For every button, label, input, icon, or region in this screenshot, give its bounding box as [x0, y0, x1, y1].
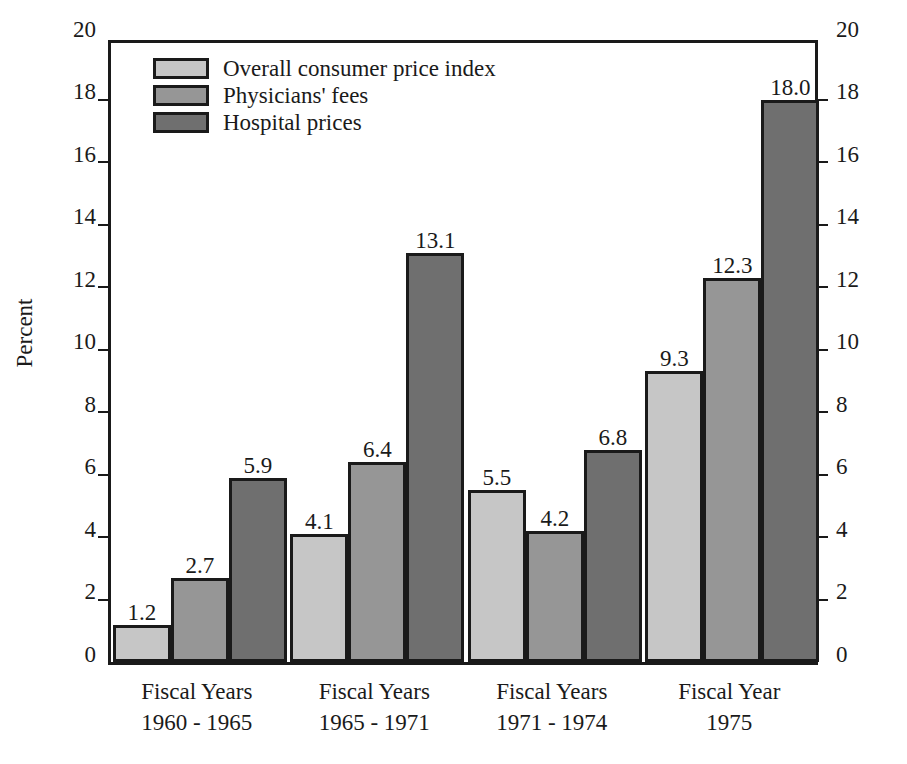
y-tick-left	[98, 411, 111, 413]
bar: 2.7	[171, 578, 229, 662]
x-axis-group-label-line: 1975	[678, 707, 780, 738]
y-tick-label-right: 16	[836, 142, 859, 165]
y-tick-label-left: 18	[73, 80, 96, 103]
legend-item[interactable]: Hospital prices	[153, 109, 496, 136]
y-tick-label-left: 14	[73, 205, 96, 228]
y-tick-label-right: 10	[836, 330, 859, 353]
x-axis-group-label-line: Fiscal Years	[141, 676, 252, 707]
bar: 18.0	[761, 100, 819, 663]
x-axis-group-label-line: 1971 - 1974	[496, 707, 607, 738]
legend-swatch-icon	[153, 112, 209, 133]
x-axis-group-label: Fiscal Years1971 - 1974	[496, 676, 607, 738]
x-axis-group-label-line: Fiscal Years	[496, 676, 607, 707]
bar-value-label: 6.4	[363, 438, 392, 461]
y-tick-left	[98, 474, 111, 476]
bar: 9.3	[645, 371, 703, 662]
bar: 13.1	[406, 253, 464, 662]
bar-value-label: 4.1	[305, 510, 334, 533]
bar: 12.3	[703, 278, 761, 662]
x-axis-group-label-line: Fiscal Years	[319, 676, 430, 707]
bar-value-label: 5.5	[482, 466, 511, 489]
y-tick-label-left: 8	[85, 392, 97, 415]
bar: 1.2	[113, 625, 171, 663]
bar-value-label: 13.1	[415, 229, 455, 252]
x-axis-group-label-line: 1960 - 1965	[141, 707, 252, 738]
y-axis-labels-right: 02468101214161820	[836, 40, 884, 665]
y-tick-label-left: 2	[85, 580, 97, 603]
bar: 4.2	[526, 531, 584, 662]
y-tick-label-right: 18	[836, 80, 859, 103]
bar-value-label: 9.3	[660, 347, 689, 370]
y-tick-label-right: 14	[836, 205, 859, 228]
y-tick-label-left: 6	[85, 455, 97, 478]
bar: 6.8	[584, 450, 642, 663]
legend-item[interactable]: Overall consumer price index	[153, 55, 496, 82]
x-axis-group-label: Fiscal Years1960 - 1965	[141, 676, 252, 738]
y-tick-label-right: 2	[836, 580, 848, 603]
bar-value-label: 6.8	[598, 426, 627, 449]
y-tick-label-right: 8	[836, 392, 848, 415]
bar-value-label: 12.3	[712, 254, 752, 277]
y-tick-label-left: 12	[73, 267, 96, 290]
bar: 5.9	[229, 478, 287, 662]
legend-label: Hospital prices	[223, 111, 362, 134]
legend-swatch-icon	[153, 58, 209, 79]
x-axis-group-label: Fiscal Years1965 - 1971	[319, 676, 430, 738]
y-axis-labels-left: 02468101214161820	[48, 40, 96, 665]
x-axis-group-labels: Fiscal Years1960 - 1965Fiscal Years1965 …	[108, 676, 818, 746]
x-axis-group-label: Fiscal Year1975	[678, 676, 780, 738]
y-tick-label-right: 12	[836, 267, 859, 290]
y-tick-label-right: 6	[836, 455, 848, 478]
bar: 4.1	[290, 534, 348, 662]
legend-swatch-icon	[153, 85, 209, 106]
legend-label: Overall consumer price index	[223, 57, 496, 80]
bar-value-label: 18.0	[770, 76, 810, 99]
bar-value-label: 2.7	[185, 554, 214, 577]
y-axis-title: Percent	[12, 263, 38, 403]
y-tick-label-left: 0	[85, 642, 97, 665]
x-axis-group-label-line: Fiscal Year	[678, 676, 780, 707]
y-tick-left	[98, 599, 111, 601]
y-tick-label-left: 10	[73, 330, 96, 353]
chart-page: Percent 02468101214161820 02468101214161…	[0, 0, 907, 764]
y-tick-label-left: 16	[73, 142, 96, 165]
plot-area: 1.22.75.94.16.413.15.54.26.89.312.318.0 …	[108, 40, 818, 665]
y-tick-left	[98, 536, 111, 538]
y-tick-left	[98, 349, 111, 351]
y-tick-label-right: 0	[836, 642, 848, 665]
y-tick-left	[98, 224, 111, 226]
chart-legend: Overall consumer price indexPhysicians' …	[153, 55, 496, 136]
y-tick-label-left: 20	[73, 17, 96, 40]
y-tick-left	[98, 99, 111, 101]
bar-value-label: 5.9	[243, 454, 272, 477]
bar-value-label: 4.2	[540, 507, 569, 530]
x-axis-group-label-line: 1965 - 1971	[319, 707, 430, 738]
bar-value-label: 1.2	[127, 601, 156, 624]
y-tick-label-left: 4	[85, 517, 97, 540]
y-tick-left	[98, 161, 111, 163]
bar: 5.5	[468, 490, 526, 662]
y-tick-label-right: 4	[836, 517, 848, 540]
bar: 6.4	[348, 462, 406, 662]
y-tick-label-right: 20	[836, 17, 859, 40]
y-tick-left	[98, 286, 111, 288]
legend-item[interactable]: Physicians' fees	[153, 82, 496, 109]
legend-label: Physicians' fees	[223, 84, 368, 107]
